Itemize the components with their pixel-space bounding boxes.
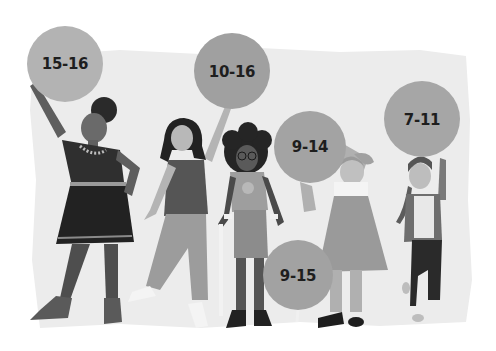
balloon-7-11: 7-11 xyxy=(384,81,460,157)
balloon-9-14: 9-14 xyxy=(274,111,346,183)
balloon-15-16: 15-16 xyxy=(27,26,103,102)
balloon-label: 9-15 xyxy=(280,267,316,285)
balloon-10-16: 10-16 xyxy=(194,33,270,109)
balloon-label: 7-11 xyxy=(404,111,440,129)
balloon-label: 10-16 xyxy=(209,63,255,81)
balloon-label: 9-14 xyxy=(292,138,328,156)
illustration: 15-16 10-16 9-14 7-11 9-15 xyxy=(0,0,496,351)
balloon-label: 15-16 xyxy=(42,55,88,73)
